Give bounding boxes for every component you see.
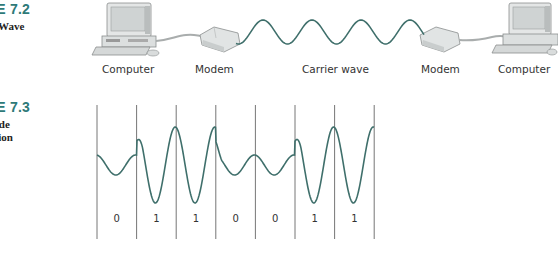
- modem-left-icon: [200, 27, 240, 52]
- label-modem-left: Modem: [195, 63, 234, 75]
- amplitude-modulated-wave: [97, 127, 374, 203]
- computer-left-icon: [92, 3, 159, 56]
- cable-left: [156, 35, 204, 41]
- bit-label: 0: [232, 213, 238, 224]
- bit-label: 1: [153, 213, 159, 224]
- carrier-wave-diagram: [0, 0, 558, 254]
- carrier-wave: [236, 20, 424, 44]
- bit-label: 0: [114, 213, 120, 224]
- label-computer-right: Computer: [498, 63, 550, 75]
- label-modem-right: Modem: [421, 63, 460, 75]
- modem-right-icon: [420, 27, 460, 52]
- computer-right-icon: [492, 3, 558, 55]
- label-computer-left: Computer: [102, 63, 154, 75]
- bit-label: 1: [193, 213, 199, 224]
- label-carrier-wave: Carrier wave: [302, 63, 369, 75]
- bit-label: 1: [312, 213, 318, 224]
- bit-label: 1: [351, 213, 357, 224]
- bit-label: 0: [272, 213, 278, 224]
